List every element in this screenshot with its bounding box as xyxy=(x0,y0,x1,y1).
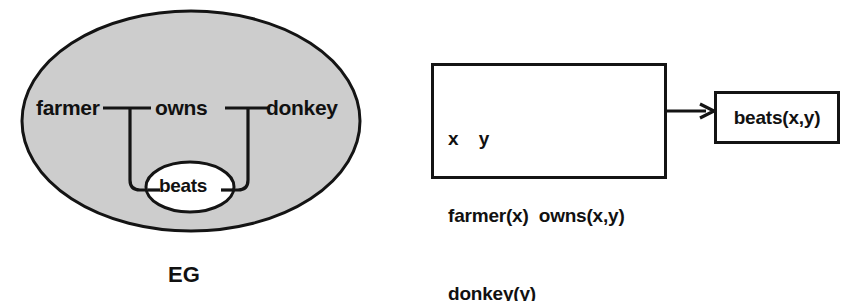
eg-panel: farmer owns donkey beats EG xyxy=(0,0,400,301)
donkey-sentence-figure: farmer owns donkey beats EG x y farmer(x… xyxy=(0,0,854,301)
drs-panel: x y farmer(x) owns(x,y) donkey(y) beats(… xyxy=(400,0,854,301)
eg-node-donkey: donkey xyxy=(266,97,338,118)
eg-node-farmer: farmer xyxy=(36,97,100,118)
drs-condition-line-2: donkey(y) xyxy=(448,281,625,301)
implication-arrow-icon xyxy=(664,101,718,121)
eg-caption: EG xyxy=(168,262,200,288)
eg-graph-svg xyxy=(0,0,400,250)
eg-node-beats: beats xyxy=(159,176,207,195)
drs-discourse-referents: x y xyxy=(448,126,625,152)
drs-antecedent-content: x y farmer(x) owns(x,y) donkey(y) xyxy=(448,74,625,301)
drs-antecedent-box: x y farmer(x) owns(x,y) donkey(y) xyxy=(431,63,667,179)
drs-condition-line-1: farmer(x) owns(x,y) xyxy=(448,203,625,229)
drs-consequent-box: beats(x,y) xyxy=(714,91,840,144)
eg-node-owns: owns xyxy=(155,97,207,118)
drs-consequent-condition: beats(x,y) xyxy=(734,107,821,129)
